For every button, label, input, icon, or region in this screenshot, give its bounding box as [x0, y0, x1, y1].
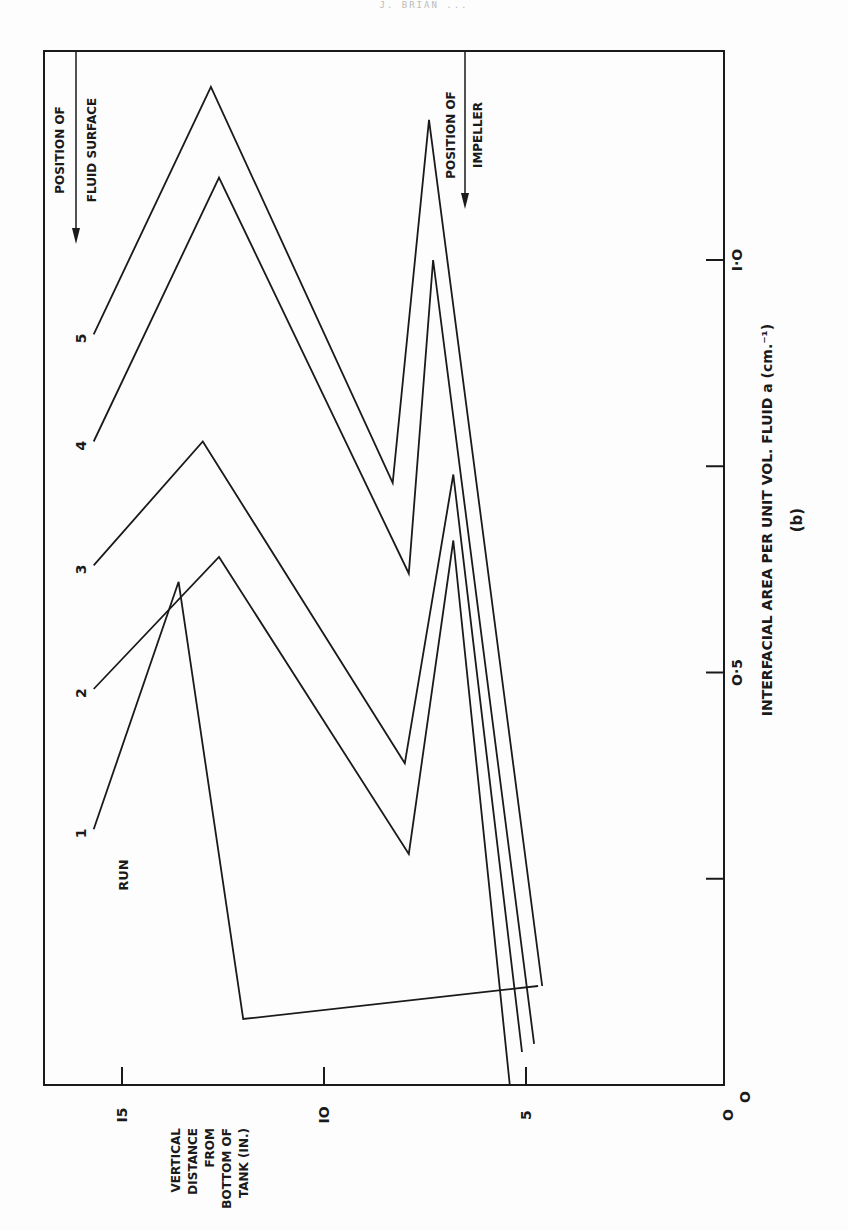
impeller-label: IMPELLER — [471, 102, 485, 168]
distance-axis-label: DISTANCE — [186, 1128, 200, 1195]
run-label-4: 4 — [73, 440, 89, 450]
arrowhead-icon — [461, 193, 469, 209]
area-axis-label: INTERFACIAL AREA PER UNIT VOL. FLUID a (… — [759, 324, 775, 716]
fluid-surface-label: FLUID SURFACE — [85, 98, 99, 203]
area-tick-label: I·O — [729, 249, 745, 272]
distance-tick-label: IO — [316, 1106, 332, 1123]
series-line-run-5 — [94, 87, 543, 986]
series-line-run-2 — [94, 541, 510, 1086]
annotations: RUNPOSITION OFFLUID SURFACEPOSITION OFIM… — [53, 51, 485, 891]
distance-axis-ticks: O5IOI5VERTICALDISTANCEFROMBOTTOM OFTANK … — [114, 1067, 736, 1209]
distance-tick-label: O — [720, 1109, 736, 1121]
area-axis-ticks: OO·5I·OINTERFACIAL AREA PER UNIT VOL. FL… — [706, 249, 806, 1103]
distance-axis-label: VERTICAL — [169, 1128, 183, 1193]
series-line-run-3 — [94, 442, 522, 1053]
distance-axis-label: FROM — [203, 1128, 217, 1168]
series-line-run-4 — [94, 178, 534, 1044]
chart: OO·5I·OINTERFACIAL AREA PER UNIT VOL. FL… — [0, 0, 848, 1230]
run-label-3: 3 — [73, 564, 89, 574]
distance-axis-label: TANK (IN.) — [237, 1128, 251, 1198]
distance-axis-label: BOTTOM OF — [220, 1128, 234, 1209]
area-tick-label: O·5 — [729, 659, 745, 686]
area-tick-label: O — [737, 1091, 753, 1103]
figure-caption: (b) — [788, 508, 806, 532]
run-label-2: 2 — [73, 688, 89, 698]
distance-tick-label: I5 — [114, 1108, 130, 1123]
run-label-1: 1 — [73, 828, 89, 838]
impeller-label: POSITION OF — [444, 91, 458, 179]
series-lines: 12345 — [73, 87, 542, 1085]
run-heading: RUN — [116, 859, 131, 890]
arrowhead-icon — [72, 228, 80, 244]
fluid-surface-label: POSITION OF — [53, 106, 67, 194]
plot-frame — [44, 51, 724, 1085]
series-line-run-1 — [94, 582, 538, 1019]
distance-tick-label: 5 — [518, 1110, 534, 1120]
run-label-5: 5 — [73, 333, 89, 343]
